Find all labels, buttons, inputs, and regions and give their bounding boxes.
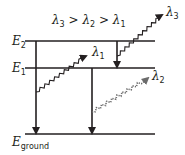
level-label-ground: Eground [11, 135, 49, 151]
photon-lambda2-wave [92, 78, 148, 112]
level-label-e1: E1 [11, 61, 26, 77]
photon-label-lambda2: λ2 [151, 69, 165, 85]
level-label-e2: E2 [11, 34, 26, 50]
photon-label-lambda1: λ1 [91, 45, 105, 61]
photon-label-lambda3: λ3 [165, 5, 179, 21]
wavelength-order-title: λ3 > λ2 > λ1 [51, 13, 125, 29]
energy-level-diagram: λ3 > λ2 > λ1 E2 E1 Eground λ1 λ2 λ3 [0, 0, 185, 155]
photon-lambda1-wave [36, 56, 86, 92]
